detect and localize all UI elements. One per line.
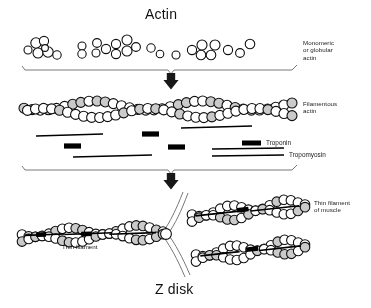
legend-troponin-swatch	[242, 141, 261, 146]
bar-tropomyosin	[181, 126, 252, 128]
bar-tropomyosin	[212, 148, 284, 149]
thin-filament-group	[17, 195, 310, 266]
arrow-polymerization	[163, 73, 178, 90]
label-thin-filament-of-muscle: Thin filament of muscle	[314, 199, 350, 214]
bottom-title: Z disk	[155, 281, 194, 297]
arrow-assembly	[163, 173, 178, 190]
legend-label-troponin: Troponin	[266, 139, 291, 146]
label-thin-filament: Thin filament	[62, 243, 97, 250]
brace-monomeric	[22, 65, 297, 74]
label-monomeric-actin: Monomeric or globular actin	[303, 39, 334, 61]
page-title: Actin	[145, 6, 177, 22]
monomeric-actin-group	[24, 35, 255, 60]
bar-tropomyosin	[36, 134, 103, 136]
filamentous-actin-group	[19, 96, 297, 123]
legend-tropomyosin-swatch	[212, 155, 284, 156]
label-filamentous-actin: Filamentous actin	[303, 100, 337, 115]
bar-tropomyosin	[73, 155, 152, 157]
legend-label-tropomyosin: Tropomyosin	[289, 151, 326, 158]
brace-filamentous	[22, 165, 297, 174]
actin-diagram: Actin Monomeric or globular actin Filame…	[0, 0, 371, 308]
